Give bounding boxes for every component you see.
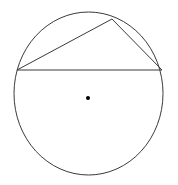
geometry-figure xyxy=(0,0,178,185)
circle-outline xyxy=(14,12,163,175)
geometry-canvas xyxy=(0,0,178,185)
chord-top-to-right xyxy=(112,19,162,70)
chord-left-to-top xyxy=(17,19,112,70)
center-dot xyxy=(86,96,90,100)
